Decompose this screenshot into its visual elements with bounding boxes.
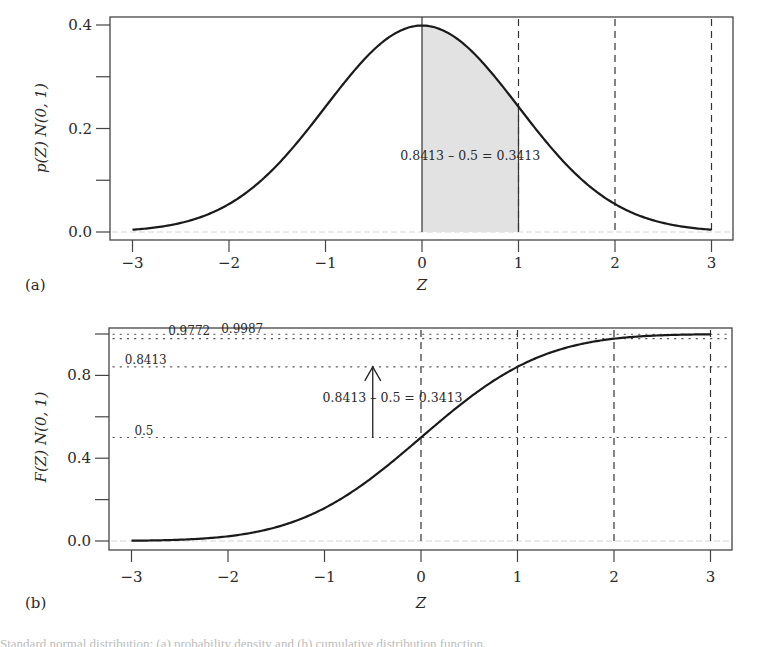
y-axis-label: p(Z) N(0, 1): [32, 83, 50, 173]
panel-label: (a): [25, 276, 46, 294]
x-tick-label: −2: [217, 568, 239, 586]
x-tick-label: 3: [706, 568, 716, 586]
y-tick-label: 0.4: [68, 16, 92, 34]
figure-caption: Standard normal distribution: (a) probab…: [0, 636, 758, 647]
x-tick-label: −3: [121, 254, 143, 272]
x-tick-label: 3: [707, 254, 717, 272]
x-axis-label: Z: [416, 276, 428, 294]
y-tick-label: 0.0: [67, 532, 91, 550]
x-tick-label: 0: [417, 254, 427, 272]
x-tick-label: 0: [416, 568, 426, 586]
x-tick-label: −2: [218, 254, 240, 272]
difference-annotation: 0.8413 – 0.5 = 0.3413: [400, 148, 540, 163]
x-axis-label: Z: [415, 594, 427, 612]
reference-label-0.9987: 0.9987: [221, 322, 263, 336]
reference-label-0.9772: 0.9772: [168, 324, 210, 338]
x-tick-label: 2: [610, 254, 620, 272]
y-axis-label: F(Z) N(0, 1): [32, 391, 50, 483]
y-tick-label: 0.2: [68, 120, 92, 138]
figure: −3−2−101230.00.20.4Zp(Z) N(0, 1)(a)0.841…: [0, 0, 758, 647]
reference-label-0.5: 0.5: [134, 424, 153, 438]
reference-label-0.8413: 0.8413: [125, 353, 167, 367]
x-tick-label: −1: [314, 254, 336, 272]
x-tick-label: 1: [514, 254, 524, 272]
y-tick-label: 0.0: [68, 223, 92, 241]
shaded-area: [422, 26, 519, 232]
x-tick-label: 1: [513, 568, 523, 586]
y-tick-label: 0.4: [67, 449, 91, 467]
x-tick-label: 2: [609, 568, 619, 586]
panel-label: (b): [25, 594, 46, 612]
difference-annotation: 0.8413 – 0.5 = 0.3413: [323, 390, 463, 405]
x-tick-label: −1: [313, 568, 335, 586]
y-tick-label: 0.8: [67, 366, 91, 384]
x-tick-label: −3: [120, 568, 142, 586]
chart-panel-a: −3−2−101230.00.20.4Zp(Z) N(0, 1)(a)0.841…: [25, 16, 733, 294]
chart-panel-b: −3−2−101230.00.40.8ZF(Z) N(0, 1)(b)0.998…: [25, 322, 732, 612]
